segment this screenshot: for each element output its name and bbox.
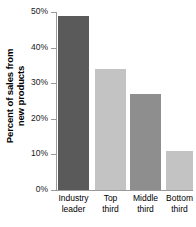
bar-chart: Percent of sales from new products 0%10%… [0, 0, 195, 227]
y-axis-tick-label: 0% [14, 185, 48, 194]
x-axis-labels: IndustryleaderTopthirdMiddlethirdBottomt… [50, 193, 195, 223]
bar [166, 151, 193, 190]
y-axis-title-line-1: Percent of sales from [4, 49, 15, 144]
y-axis-tick [51, 12, 56, 13]
y-axis-tick-label: 40% [14, 43, 48, 52]
x-axis-label: Bottomthird [156, 193, 196, 214]
y-axis-tick [51, 190, 56, 191]
y-axis-tick-label: 50% [14, 7, 48, 16]
y-axis-title-line-2: new products [15, 49, 26, 144]
y-axis-tick-label: 10% [14, 149, 48, 158]
y-axis-tick-label: 30% [14, 78, 48, 87]
y-axis-tick-label: 20% [14, 114, 48, 123]
bars-group [57, 12, 193, 190]
bar [58, 16, 89, 190]
x-axis-label-line: third [156, 204, 196, 215]
y-axis-tick [51, 83, 56, 84]
y-axis-tick [51, 119, 56, 120]
y-axis-title: Percent of sales from new products [0, 0, 30, 192]
bar [95, 69, 126, 190]
y-axis-tick [51, 154, 56, 155]
bar [130, 94, 161, 190]
y-axis-tick [51, 48, 56, 49]
x-axis-line [56, 190, 193, 191]
x-axis-label-line: Bottom [156, 193, 196, 204]
